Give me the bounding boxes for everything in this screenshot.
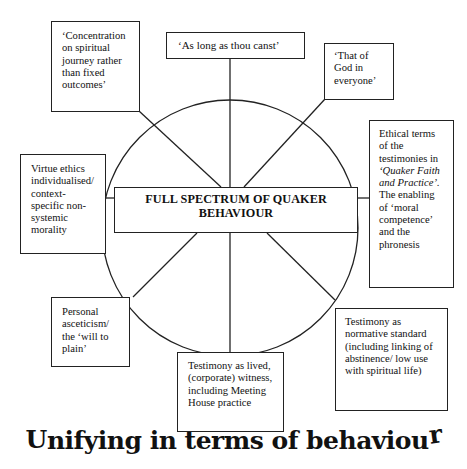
- box-line: and the: [379, 226, 453, 238]
- box-testimony-as-lived: Testimony as lived, (corporate) witness,…: [177, 352, 284, 432]
- box-line: everyone’: [334, 75, 393, 87]
- box-virtue-ethics: Virtue ethics individualised/ context- s…: [20, 154, 106, 254]
- box-line: Testimony as: [345, 316, 447, 328]
- box-line: ‘As long as thou canst’: [178, 39, 304, 51]
- box-line: outcomes’: [62, 79, 139, 91]
- box-line-italic: ‘Quaker Faith: [379, 165, 453, 177]
- box-line: including Meeting: [188, 385, 283, 397]
- box-as-long-as-thou-canst: ‘As long as thou canst’: [166, 32, 305, 59]
- box-line: ‘That of: [334, 50, 393, 62]
- box-line: asceticism/: [62, 318, 129, 330]
- box-line: on spiritual: [62, 42, 139, 54]
- box-normative-standard: Testimony as normative standard (includi…: [335, 308, 448, 411]
- center-label-box: FULL SPECTRUM OF QUAKER BEHAVIOUR: [114, 187, 358, 233]
- box-line: House practice: [188, 397, 283, 409]
- box-line-italic: and Practice’.: [379, 177, 453, 189]
- spoke-upper-left: [139, 111, 221, 187]
- box-line: The enabling: [379, 189, 453, 201]
- box-line: specific non-: [31, 200, 105, 212]
- box-ethical-terms: Ethical terms of the testimonies in ‘Qua…: [369, 120, 454, 288]
- box-line: morality: [31, 224, 105, 236]
- box-line: testimonies in: [379, 153, 453, 165]
- box-line: Ethical terms: [379, 128, 453, 140]
- box-line: plain’: [62, 343, 129, 355]
- box-line: Virtue ethics: [31, 163, 105, 175]
- box-line: of the: [379, 140, 453, 152]
- title-middle: nifying in terms of behaviou: [47, 426, 429, 455]
- box-line: God in: [334, 62, 393, 74]
- center-label-line1: FULL SPECTRUM OF QUAKER: [115, 192, 357, 206]
- box-line: of ‘moral: [379, 202, 453, 214]
- spoke-lower-left: [133, 233, 197, 297]
- box-line: Personal: [62, 306, 129, 318]
- box-line: (corporate) witness,: [188, 372, 283, 384]
- spoke-lower-right: [267, 233, 335, 300]
- center-label-line2: BEHAVIOUR: [115, 206, 357, 220]
- box-line: Testimony as lived,: [188, 360, 283, 372]
- box-line: competence’: [379, 214, 453, 226]
- box-line: with spiritual life): [345, 365, 447, 377]
- box-line: context-: [31, 188, 105, 200]
- box-line: journey rather: [62, 55, 139, 67]
- box-line: individualised/: [31, 175, 105, 187]
- box-personal-asceticism: Personal asceticism/ the ‘will to plain’: [51, 297, 130, 367]
- box-line: than fixed: [62, 67, 139, 79]
- box-that-of-god: ‘That of God in everyone’: [324, 43, 394, 100]
- diagram-title: Unifying in terms of behaviour: [0, 426, 467, 455]
- box-spiritual-journey: ‘Concentration on spiritual journey rath…: [51, 21, 140, 112]
- title-first: U: [26, 425, 47, 454]
- box-line: (including linking of: [345, 341, 447, 353]
- box-line: normative standard: [345, 328, 447, 340]
- box-line: systemic: [31, 212, 105, 224]
- box-line: ‘Concentration: [62, 30, 139, 42]
- box-line: abstinence/ low use: [345, 353, 447, 365]
- box-line: phronesis: [379, 239, 453, 251]
- box-line: the ‘will to: [62, 331, 129, 343]
